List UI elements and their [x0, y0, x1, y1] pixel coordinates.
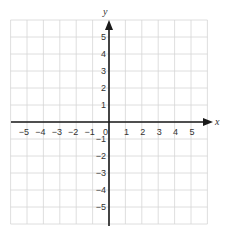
tick-label: −3 [96, 168, 106, 178]
axes [11, 20, 213, 226]
tick-label: −1 [84, 127, 94, 137]
coordinate-plane: x y 0 −5−4−3−2−11234554321−1−2−3−4−5 [0, 0, 225, 226]
tick-label: 2 [140, 127, 145, 137]
tick-label: 1 [124, 127, 129, 137]
tick-label: −3 [52, 127, 62, 137]
tick-label: 5 [189, 127, 194, 137]
tick-label: 3 [101, 66, 106, 76]
tick-label: −1 [96, 134, 106, 144]
tick-label: −2 [68, 127, 78, 137]
tick-label: 4 [101, 49, 106, 59]
y-axis-label: y [102, 6, 108, 17]
tick-label: −5 [19, 127, 29, 137]
tick-label: −4 [96, 185, 106, 195]
y-axis-arrow-icon [105, 20, 113, 30]
tick-label: −2 [96, 151, 106, 161]
tick-label: 3 [157, 127, 162, 137]
tick-label: −5 [96, 202, 106, 212]
tick-label: 4 [173, 127, 178, 137]
x-axis-arrow-icon [203, 118, 213, 126]
tick-label: 5 [101, 32, 106, 42]
x-axis-label: x [214, 116, 220, 127]
tick-label: 2 [101, 83, 106, 93]
tick-label: −4 [35, 127, 45, 137]
tick-label: 1 [101, 100, 106, 110]
